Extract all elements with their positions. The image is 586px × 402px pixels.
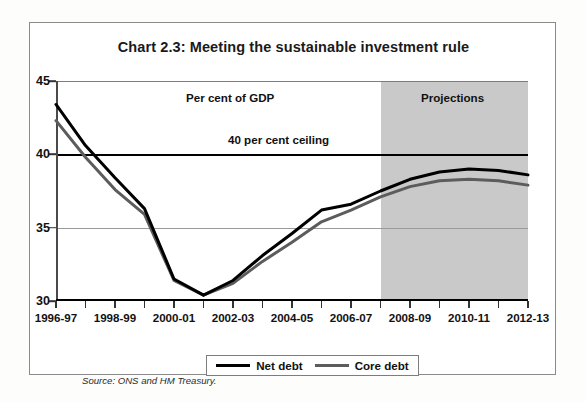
x-tick-mark-2009-10 xyxy=(439,301,441,308)
legend-swatch-core-debt xyxy=(315,364,349,367)
x-tick-mark-2005-06 xyxy=(321,301,323,308)
x-tick-mark-1997-98 xyxy=(85,301,87,308)
x-tick-label-2012-13: 2012-13 xyxy=(507,311,550,324)
y-tick-label-45: 45 xyxy=(36,74,50,88)
x-tick-mark-2001-02 xyxy=(203,301,205,308)
x-tick-mark-1999-00 xyxy=(144,301,146,308)
chart-panel: Chart 2.3: Meeting the sustainable inves… xyxy=(29,22,556,375)
x-tick-mark-1996-97 xyxy=(55,301,57,308)
x-tick-mark-2011-12 xyxy=(498,301,500,308)
legend-label-core-debt: Core debt xyxy=(355,359,409,372)
series-lines xyxy=(56,81,528,301)
chart-figure: Chart 2.3: Meeting the sustainable inves… xyxy=(0,0,586,402)
x-tick-mark-1998-99 xyxy=(114,301,116,308)
legend-swatch-net-debt xyxy=(216,364,250,367)
y-tick-label-30: 30 xyxy=(36,294,50,308)
legend-entry-net-debt: Net debt xyxy=(216,359,302,372)
x-tick-label-2000-01: 2000-01 xyxy=(153,311,196,324)
y-tick-label-40: 40 xyxy=(36,147,50,161)
x-tick-mark-2004-05 xyxy=(291,301,293,308)
legend-entry-core-debt: Core debt xyxy=(315,359,409,372)
x-tick-mark-2006-07 xyxy=(350,301,352,308)
source-note: Source: ONS and HM Treasury. xyxy=(82,375,217,386)
y-tick-label-35: 35 xyxy=(36,221,50,235)
x-tick-label-1998-99: 1998-99 xyxy=(94,311,137,324)
x-tick-mark-2012-13 xyxy=(527,301,529,308)
x-tick-label-2002-03: 2002-03 xyxy=(212,311,255,324)
chart-legend: Net debt Core debt xyxy=(206,355,419,376)
x-tick-label-2004-05: 2004-05 xyxy=(271,311,314,324)
x-tick-mark-2007-08 xyxy=(380,301,382,308)
x-tick-mark-2010-11 xyxy=(468,301,470,308)
x-tick-mark-2008-09 xyxy=(409,301,411,308)
x-tick-mark-2002-03 xyxy=(232,301,234,308)
x-tick-mark-2003-04 xyxy=(262,301,264,308)
x-tick-label-1996-97: 1996-97 xyxy=(35,311,78,324)
plot-area: 45 40 35 30 1996-971998-992000-012002-03… xyxy=(56,81,528,301)
page-title: Chart 2.3: Meeting the sustainable inves… xyxy=(30,39,557,55)
line-core-debt xyxy=(56,121,528,296)
legend-label-net-debt: Net debt xyxy=(256,359,302,372)
x-tick-label-2006-07: 2006-07 xyxy=(330,311,373,324)
x-tick-mark-2000-01 xyxy=(173,301,175,308)
x-tick-label-2010-11: 2010-11 xyxy=(448,311,490,324)
x-tick-label-2008-09: 2008-09 xyxy=(389,311,432,324)
